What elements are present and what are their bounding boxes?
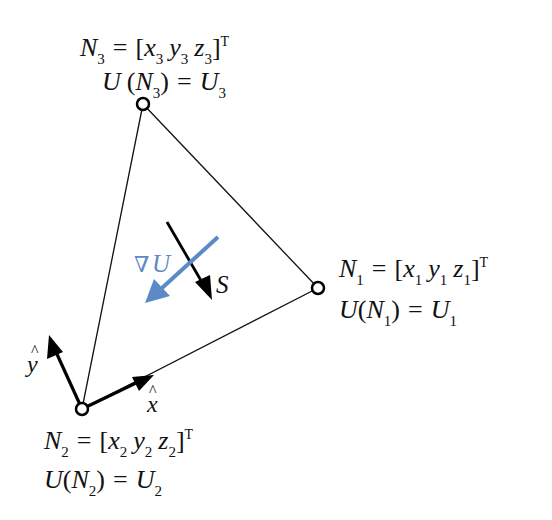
y-hat-arrow-shaft [56,352,82,409]
s-label: S [216,271,229,298]
diagram-canvas: x ^ y ^ S ∇ U N3=[x3y3z3]T U(N3)=U3 N1=[… [0,0,552,520]
gradient-u-label: U [152,250,172,277]
n2-value-equation: U(N2)=U2 [44,465,162,499]
local-axes: x ^ y ^ [25,335,158,417]
y-hat-caret: ^ [31,342,39,359]
direction-s-arrow: S [167,222,229,300]
y-hat-arrowhead-icon [47,335,63,359]
n3-value-equation: U(N3)=U3 [102,67,226,101]
node-n3 [137,98,149,110]
gradient-nabla-label: ∇ [134,252,149,277]
gradient-arrow: ∇ U [134,237,218,303]
n1-value-equation: U(N1)=U1 [339,295,457,329]
triangle-element [82,104,318,409]
node-n2-label: N2=[x2y2z2]T U(N2)=U2 [43,426,194,499]
n1-coordinate-equation: N1=[x1y1z1]T [338,254,489,288]
node-n2 [76,403,88,415]
n2-coordinate-equation: N2=[x2y2z2]T [43,426,194,460]
x-hat-caret: ^ [149,382,157,399]
node-n3-label: N3=[x3y3z3]T U(N3)=U3 [79,33,230,101]
s-arrowhead-icon [195,275,212,300]
nodes [76,98,324,415]
node-n1 [312,282,324,294]
x-hat-arrow-shaft [82,382,138,409]
node-n1-label: N1=[x1y1z1]T U(N1)=U1 [338,254,489,329]
n3-coordinate-equation: N3=[x3y3z3]T [79,33,230,67]
